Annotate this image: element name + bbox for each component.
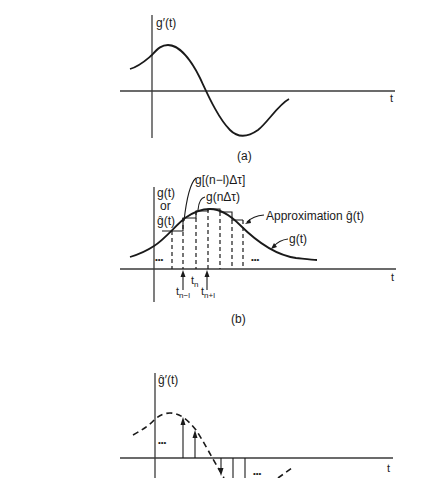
impulse-down-1: [219, 458, 224, 476]
tick-arrow-t-n-minus-1: [181, 270, 186, 290]
tick-label-t-n-plus-1: tn+l: [201, 285, 215, 300]
panel-b-y-label-line3: ĝ(t): [157, 214, 175, 228]
figure-canvas: g′(t) t (a) g(t) or ĝ(t) t ••• ••• g[(n−: [0, 0, 427, 478]
annotation-true-signal: g(t): [289, 232, 307, 246]
tick-label-t-n: tn: [191, 274, 199, 289]
panel-c-ellipsis-right: •••: [253, 469, 262, 478]
panel-a-derivative-curve: [130, 45, 289, 136]
panel-b: g(t) or ĝ(t) t ••• ••• g[(n−l)Δτ] g(nΔτ)…: [120, 173, 396, 326]
panel-b-caption: (b): [231, 312, 246, 326]
panel-c-ellipsis-left: •••: [158, 438, 167, 447]
panel-a: g′(t) t (a): [120, 15, 395, 163]
impulse-up-2: [193, 430, 198, 458]
panel-c-dashed-curve-tail: [278, 468, 292, 478]
panel-a-caption: (a): [237, 149, 252, 163]
annotation-current-sample: g(nΔτ): [206, 190, 240, 204]
panel-b-ellipsis-left: •••: [155, 255, 164, 264]
panel-b-x-label: t: [391, 271, 394, 283]
panel-a-y-label: g′(t): [156, 16, 176, 30]
panel-b-ellipsis-right: •••: [251, 255, 260, 264]
panel-c-y-label: ĝ′(t): [158, 373, 178, 387]
annotation-approximation: Approximation ĝ(t): [266, 209, 364, 223]
annotation-prev-sample: g[(n−l)Δτ]: [195, 173, 245, 187]
impulse-up-1: [181, 417, 186, 458]
tick-arrow-t-n-plus-1: [205, 270, 210, 290]
panel-c-x-label: t: [387, 462, 390, 474]
leader-current-sample: [198, 197, 205, 210]
panel-c: ĝ′(t) t ••• •••: [120, 373, 393, 478]
panel-b-y-label-line1: g(t): [157, 186, 175, 200]
arrowhead-approximation: [245, 219, 251, 224]
panel-b-y-label-line2: or: [160, 199, 171, 213]
panel-c-dashed-derivative-curve: [133, 413, 224, 478]
panel-a-x-label: t: [390, 92, 393, 104]
